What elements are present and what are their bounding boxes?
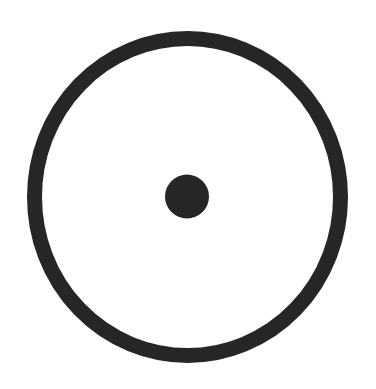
center-dot (165, 175, 209, 219)
circled-dot-icon (0, 0, 376, 389)
symbol-canvas (0, 0, 376, 389)
